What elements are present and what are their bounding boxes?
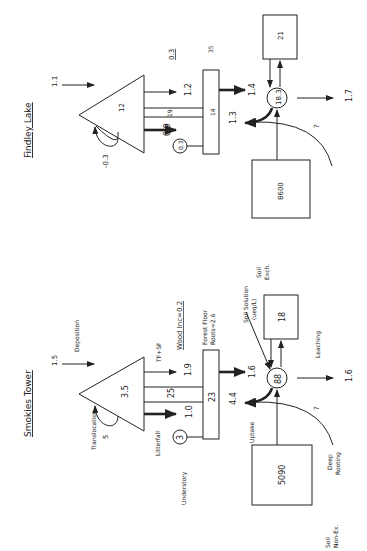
smokies-canopy-value: 3.5 [121, 385, 130, 398]
findley-ff-to-solution-value: 1.4 [248, 83, 257, 96]
smokies-tf-sf-value: 1.9 [184, 363, 193, 376]
findley-wood-inc: 0.3 [168, 49, 176, 60]
smokies-forest-floor-value: 23 [208, 392, 217, 402]
findley-litterfall-value: 0.9 [163, 123, 172, 136]
findley-leaching-value: 1.7 [345, 89, 354, 102]
smokies-translocation-value: 5 [102, 435, 110, 439]
smokies-soil-exch-value: 18 [278, 312, 287, 322]
canopy-triangle [79, 75, 144, 153]
findley-stemflow-value: 19 [166, 109, 173, 117]
smokies-soil-nonex-label-1: Soil [324, 537, 331, 548]
smokies-leaching-value: 1.6 [345, 369, 354, 382]
smokies-soil-solution-label-2: (ueq/L) [250, 299, 258, 320]
smokies-stemflow-value: 25 [167, 388, 176, 398]
smokies-title: Smokies Tower [23, 370, 33, 437]
smokies-soil-nonex-label-2: Non-Ex. [332, 525, 339, 548]
smokies-deep-rooting-label-1: Deep [326, 454, 334, 470]
uptake-arrow [245, 388, 272, 403]
findley-roots-value: 35 [207, 45, 214, 53]
smokies-translocation-label: Translocation [90, 410, 97, 451]
smokies-soil-nonex-value: 5090 [278, 465, 287, 485]
findley-forest-floor-value: 14 [209, 108, 216, 116]
findley-deposition-value: 1.1 [51, 76, 59, 87]
findley-tf-sf-value: 1.2 [184, 83, 193, 96]
smokies-soil-exch-label-1: Soil [255, 267, 262, 278]
smokies-deposition-label: Deposition [73, 320, 81, 352]
smokies-soil-solution-value: 88 [274, 374, 283, 384]
smokies-understory-label: Understory [180, 471, 188, 505]
smokies-soil-exch-label-2: Exch. [263, 264, 270, 280]
nutrient-cycling-diagram: Findley Lake 1.1 12 -0.3 1.2 19 0.9 0.3 … [0, 0, 367, 551]
findley-understory-value: 0.3 [177, 140, 184, 150]
findley-title: Findley Lake [23, 102, 33, 158]
findley-canopy-value: 12 [118, 103, 126, 112]
findley-soil-solution-value: 18.3 [275, 89, 283, 105]
smokies-ff-to-solution-value: 1.6 [248, 365, 257, 378]
smokies-deep-rooting-label-2: Rooting [334, 452, 342, 475]
uptake-arrow [245, 108, 272, 123]
findley-soil-exch-value: 21 [277, 31, 285, 40]
findley-uptake-value: 1.3 [229, 111, 238, 124]
smokies-understory-value: 3 [176, 435, 185, 440]
canopy-triangle [79, 357, 144, 431]
findley-soil-nonex-value: 8600 [277, 182, 285, 200]
smokies-deep-rooting-value: ? [313, 406, 321, 410]
smokies-litterfall-label: Litterfall [154, 431, 161, 456]
findley-lake-panel: Findley Lake 1.1 12 -0.3 1.2 19 0.9 0.3 … [23, 15, 354, 218]
smokies-uptake-value: 4.4 [229, 392, 238, 405]
smokies-uptake-label: Uptake [248, 422, 256, 443]
smokies-forest-floor-label: Forest Floor [201, 309, 208, 345]
smokies-deposition-value: 1.5 [51, 355, 59, 366]
smokies-leaching-label: Leaching [314, 331, 322, 358]
deep-rooting-curve [253, 402, 333, 445]
smokies-wood-inc: Wood Inc=0.2 [176, 301, 184, 350]
smokies-tower-panel: Smokies Tower 1.5 Deposition 3.5 Translo… [23, 264, 354, 548]
findley-deep-rooting-value: ? [313, 124, 321, 128]
smokies-tf-sf-label: TF+SF [155, 342, 162, 363]
findley-translocation-value: -0.3 [102, 154, 110, 168]
smokies-roots-label: Roots=2.6 [209, 314, 216, 345]
smokies-litterfall-value: 1.0 [185, 405, 194, 418]
